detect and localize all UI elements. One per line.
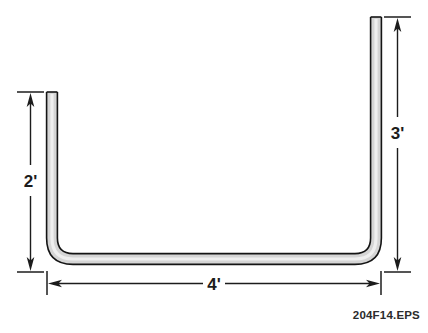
dimension-bottom-run: 4'	[47, 271, 381, 295]
dimension-right-height: 3'	[384, 17, 411, 272]
dimension-left-height: 2'	[17, 92, 44, 272]
conduit-bend-diagram: 2' 3'	[0, 0, 428, 333]
left-dimension-label: 2'	[24, 172, 38, 191]
right-dimension-label: 3'	[391, 124, 405, 143]
figure-root: 2' 3'	[0, 0, 428, 333]
bottom-dimension-label: 4'	[207, 275, 221, 294]
conduit-pipe	[47, 17, 382, 264]
pipe-highlight	[52, 19, 376, 259]
figure-caption: 204F14.EPS	[353, 309, 420, 321]
pipe-inner-edge	[57, 17, 370, 254]
pipe-fill-band	[52, 17, 376, 259]
pipe-outer-edge	[47, 17, 382, 264]
